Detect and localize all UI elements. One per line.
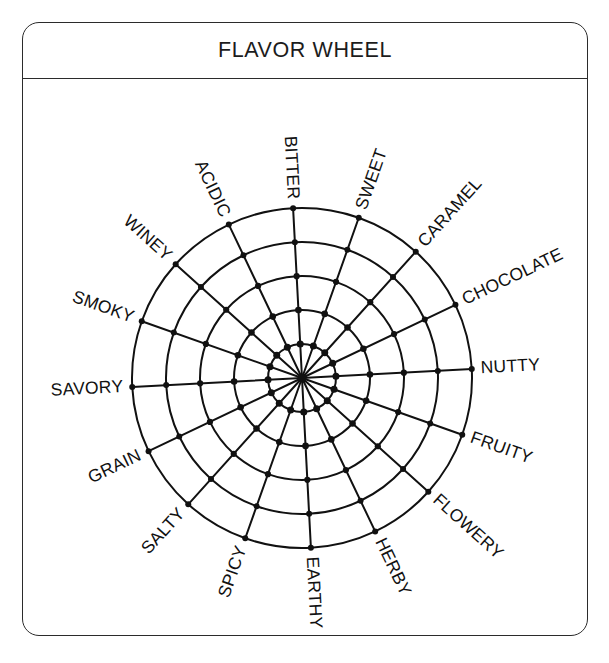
axis-label-caramel: CARAMEL <box>413 173 485 250</box>
radar-node <box>367 299 373 305</box>
radar-node <box>269 313 276 320</box>
radar-node <box>452 302 458 308</box>
radar-node <box>176 434 182 440</box>
panel-body: BITTERSWEETCARAMELCHOCOLATENUTTYFRUITYFL… <box>23 79 587 635</box>
radar-node <box>297 341 304 348</box>
axis-label-chocolate: CHOCOLATE <box>459 244 566 309</box>
radar-node <box>253 425 260 432</box>
axis-label-grain: GRAIN <box>85 445 145 487</box>
radar-node <box>363 397 370 404</box>
radar-node <box>313 405 320 412</box>
radar-node <box>331 386 338 393</box>
radar-node <box>207 419 213 425</box>
radar-node <box>395 409 401 415</box>
radar-node <box>237 404 244 411</box>
radar-node <box>235 352 242 359</box>
axis-label-savory: SAVORY <box>50 376 124 400</box>
radar-node <box>139 318 145 324</box>
radar-node <box>344 324 351 331</box>
radar-node <box>306 511 312 517</box>
radar-spoke-winey <box>176 264 302 378</box>
axis-label-acidic: ACIDIC <box>191 157 235 220</box>
radar-nodes <box>129 205 475 551</box>
radar-node <box>435 368 441 374</box>
radar-node <box>321 311 328 318</box>
radar-node <box>324 397 331 404</box>
radar-node <box>203 341 209 347</box>
radar-node <box>391 331 397 337</box>
radar-node <box>208 476 214 482</box>
radar-spoke-earthy <box>302 378 311 548</box>
flavor-wheel-screen: FLAVOR WHEEL BITTERSWEETCARAMELCHOCOLATE… <box>0 0 609 663</box>
axis-label-flowery: FLOWERY <box>429 489 508 563</box>
flavor-wheel-panel: FLAVOR WHEEL BITTERSWEETCARAMELCHOCOLATE… <box>22 22 588 636</box>
panel-header: FLAVOR WHEEL <box>23 23 587 78</box>
radar-node <box>459 432 465 438</box>
radar-node <box>372 528 378 534</box>
radar-node <box>248 329 255 336</box>
radar-node <box>231 378 238 385</box>
radar-node <box>198 284 204 290</box>
radar-spoke-caramel <box>302 252 416 378</box>
radar-node <box>173 261 179 267</box>
axis-label-nutty: NUTTY <box>480 354 540 377</box>
radar-spoke-salty <box>188 378 302 504</box>
radar-node <box>268 389 275 396</box>
axis-label-salty: SALTY <box>137 503 189 557</box>
axis-label-bitter: BITTER <box>281 135 304 199</box>
radar-node <box>400 466 406 472</box>
radar-node <box>163 382 169 388</box>
axis-label-sweet: SWEET <box>351 146 391 212</box>
radar-node <box>332 373 339 380</box>
radar-spoke-nutty <box>302 369 472 378</box>
radar-node <box>226 222 232 228</box>
radar-node <box>401 370 407 376</box>
radar-node <box>427 420 433 426</box>
radar-node <box>367 371 374 378</box>
radar-node <box>129 384 135 390</box>
radar-node <box>344 247 350 253</box>
radar-node <box>328 436 335 443</box>
radar-node <box>295 307 302 314</box>
radar-node <box>300 408 307 415</box>
radar-node <box>333 279 339 285</box>
radar-node <box>292 239 298 245</box>
radar-node <box>255 283 261 289</box>
radar-node <box>197 380 203 386</box>
radar-node <box>254 503 260 509</box>
radar-center-hub <box>298 374 307 383</box>
radar-node <box>356 215 362 221</box>
radar-spoke-bitter <box>293 208 302 378</box>
radar-node <box>146 448 152 454</box>
radar-node <box>171 330 177 336</box>
radar-node <box>413 249 419 255</box>
axis-label-fruity: FRUITY <box>468 427 535 467</box>
radar-node <box>358 498 364 504</box>
axis-label-winey: WINEY <box>120 211 177 265</box>
radar-node <box>290 205 296 211</box>
radar-spoke-flowery <box>302 378 428 492</box>
radar-node <box>276 439 283 446</box>
radar-node <box>304 477 310 483</box>
radar-node <box>349 420 356 427</box>
radar-node <box>469 366 475 372</box>
radar-node <box>422 316 428 322</box>
radar-node <box>390 274 396 280</box>
radar-node <box>287 407 294 414</box>
radar-node <box>294 273 300 279</box>
radar-node <box>360 345 367 352</box>
radar-node <box>343 467 349 473</box>
radar-node <box>284 344 291 351</box>
axis-label-smoky: SMOKY <box>70 286 137 326</box>
page-title: FLAVOR WHEEL <box>218 38 392 63</box>
radar-node <box>185 501 191 507</box>
axis-label-herby: HERBY <box>371 535 415 599</box>
radar-node <box>276 400 283 407</box>
radar-node <box>231 451 237 457</box>
radar-node <box>266 363 273 370</box>
radar-node <box>310 342 317 349</box>
radar-node <box>302 443 309 450</box>
axis-label-spicy: SPICY <box>214 543 251 600</box>
radar-node <box>329 360 336 367</box>
radar-node <box>375 443 381 449</box>
